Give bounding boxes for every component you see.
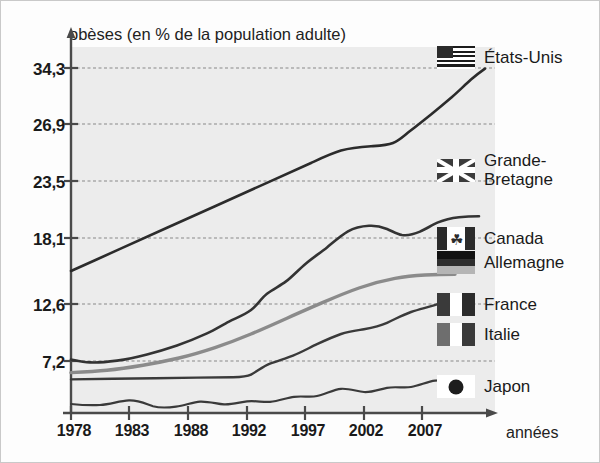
legend-item-italie[interactable]: Italie <box>437 323 520 346</box>
legend-label-etats-unis: États-Unis <box>484 48 562 67</box>
legend-label-allemagne: Allemagne <box>484 253 564 272</box>
series-line-japon <box>71 380 461 408</box>
legend-label-line1: Grande- <box>484 151 546 170</box>
gridlines <box>71 68 495 361</box>
legend-label-line2: Bretagne <box>484 170 553 189</box>
legend-label-canada: Canada <box>484 229 544 248</box>
legend-item-canada[interactable]: ☘ Canada <box>437 227 544 250</box>
legend-label-japon: Japon <box>484 377 530 396</box>
legend-label-italie: Italie <box>484 325 520 344</box>
us-flag-icon <box>437 46 475 69</box>
legend-item-japon[interactable]: Japon <box>437 375 530 398</box>
series-line-etats-unis <box>71 69 485 271</box>
de-flag-icon <box>437 251 475 274</box>
it-flag-icon <box>437 323 475 346</box>
chart-page: obèses (en % de la population adulte) an… <box>0 0 600 463</box>
maple-leaf-icon: ☘ <box>450 231 463 246</box>
legend-item-grande-bretagne[interactable]: Grande- Bretagne <box>437 151 553 189</box>
legend-item-etats-unis[interactable]: États-Unis <box>437 46 562 69</box>
legend-label-france: France <box>484 295 537 314</box>
legend-item-allemagne[interactable]: Allemagne <box>437 251 564 274</box>
ca-flag-icon: ☘ <box>437 227 475 250</box>
legend-label-grande-bretagne: Grande- Bretagne <box>484 151 553 189</box>
fr-flag-icon <box>437 293 475 316</box>
legend-item-france[interactable]: France <box>437 293 537 316</box>
uk-flag-icon <box>437 159 475 182</box>
jp-flag-icon <box>437 375 475 398</box>
